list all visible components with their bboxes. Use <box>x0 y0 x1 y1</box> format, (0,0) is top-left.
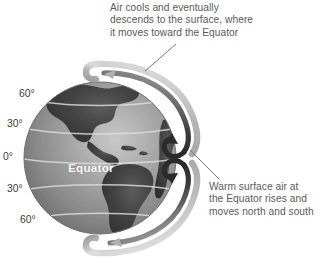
surface-air-callout: Warm surface air at the Equator rises an… <box>209 181 314 218</box>
surface-air-callout-line-2: the Equator rises and <box>209 193 314 205</box>
leader-line-top <box>145 44 176 71</box>
surface-air-callout-line-1: Warm surface air at <box>209 181 314 193</box>
equator-label: Equator <box>68 161 114 174</box>
latitude-label-south-30: 30° <box>7 183 23 194</box>
upper-air-callout-line-1: Air cools and eventually <box>110 2 253 14</box>
figure-canvas: Air cools and eventually descends to the… <box>0 0 321 264</box>
south-descend-arrowhead <box>110 238 122 247</box>
latitude-label-south-60: 60° <box>20 214 36 225</box>
latitude-label-equator-0: 0° <box>3 151 13 162</box>
latitude-label-north-30: 30° <box>7 118 23 129</box>
surface-air-callout-line-3: moves north and south <box>209 206 314 218</box>
upper-air-callout: Air cools and eventually descends to the… <box>110 2 253 39</box>
south-cell-tail-cap <box>86 238 97 253</box>
globe-group <box>24 82 176 237</box>
upper-air-callout-line-2: descends to the surface, where <box>110 14 253 26</box>
upper-air-callout-line-3: it moves toward the Equator <box>110 27 253 39</box>
diagram-artwork <box>0 0 321 264</box>
north-cell-tail-cap <box>86 64 97 79</box>
latitude-label-north-60: 60° <box>19 88 35 99</box>
